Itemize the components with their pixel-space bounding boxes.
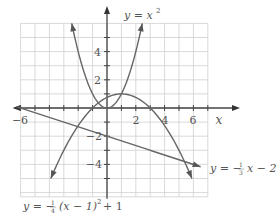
svg-text:3: 3 <box>239 169 243 176</box>
x-tick-label-6: 6 <box>190 114 197 127</box>
svg-text:2: 2 <box>97 198 101 206</box>
svg-text:x − 2: x − 2 <box>247 162 276 175</box>
svg-text:y = x: y = x <box>123 9 153 22</box>
svg-text:y = −: y = − <box>209 162 242 175</box>
svg-text:2: 2 <box>156 7 160 15</box>
svg-text:y = −: y = − <box>22 200 55 213</box>
y-axis-arrow <box>104 6 110 14</box>
svg-text:1: 1 <box>51 199 55 206</box>
grid <box>21 23 208 196</box>
label-line: y = − 1 3 x − 2 <box>209 161 276 176</box>
y-tick-label-2: 2 <box>94 74 101 87</box>
axes <box>13 6 240 199</box>
svg-text:(x − 1): (x − 1) <box>59 200 97 213</box>
y-tick-label-neg2: −2 <box>86 130 102 143</box>
x-tick-label-neg6: −6 <box>12 114 28 127</box>
curves <box>16 23 200 178</box>
label-parabola-down: y = − 1 4 (x − 1) 2 + 1 <box>22 198 123 214</box>
arrowhead <box>186 170 192 179</box>
x-axis-label: x <box>216 113 223 127</box>
y-tick-label-4: 4 <box>94 46 101 59</box>
function-graph: −6 2 4 6 x 4 2 −2 −4 y = x 2 y = − 1 3 x… <box>0 0 279 216</box>
svg-text:1: 1 <box>239 161 243 168</box>
x-axis-arrow <box>232 105 240 111</box>
arrowhead <box>51 170 57 179</box>
label-parabola-up: y = x 2 <box>123 7 160 22</box>
x-tick-label-4: 4 <box>162 114 169 127</box>
x-tick-label-2: 2 <box>133 114 140 127</box>
svg-text:4: 4 <box>51 207 55 214</box>
svg-text:+ 1: + 1 <box>103 200 123 213</box>
y-tick-label-neg4: −4 <box>86 158 102 171</box>
curve-line <box>16 107 200 167</box>
